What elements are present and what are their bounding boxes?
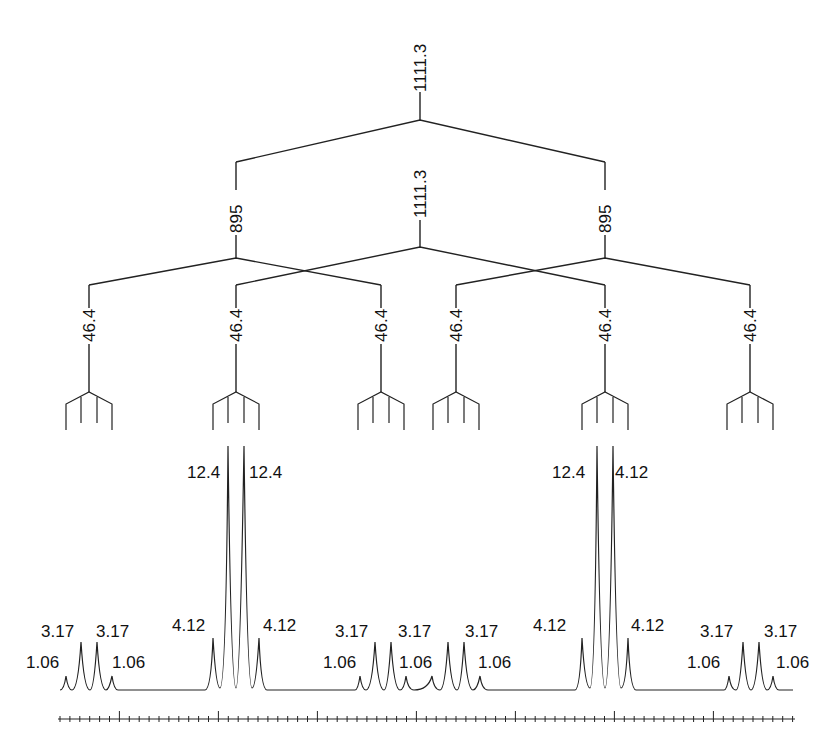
quartet-fork-1 <box>66 392 112 430</box>
peak-label: 3.17 <box>700 622 733 641</box>
peak-label: 4.12 <box>172 616 205 635</box>
coupling-label-895-right: 895 <box>596 205 615 233</box>
peak-label: 1.06 <box>478 653 511 672</box>
quartet-fork-5 <box>582 392 628 430</box>
peak-label: 12.4 <box>249 463 282 482</box>
tree-level-3: 46.4 46.4 46.4 46.4 46.4 46.4 <box>80 285 760 392</box>
peak-label: 1.06 <box>323 653 356 672</box>
coupling-label-46-3: 46.4 <box>372 309 391 342</box>
peak-label: 1.06 <box>776 653 809 672</box>
quartet-fork-3 <box>358 392 404 430</box>
coupling-label-root: 1111.3 <box>411 44 430 92</box>
coupling-label-46-1: 46.4 <box>80 309 99 342</box>
peak-label: 1.06 <box>26 653 59 672</box>
peak-label: 3.17 <box>41 622 74 641</box>
quartet-fork-2 <box>213 392 259 430</box>
coupling-label-46-4: 46.4 <box>447 309 466 342</box>
peak-label: 4.12 <box>533 616 566 635</box>
peak-label: 3.17 <box>764 622 797 641</box>
coupling-label-1111-center: 1111.3 <box>411 170 430 218</box>
peak-label: 3.17 <box>96 622 129 641</box>
quartet-fork-4 <box>433 392 479 430</box>
peak-label: 12.4 <box>552 463 585 482</box>
peak-label: 4.12 <box>615 463 648 482</box>
coupling-label-46-6: 46.4 <box>741 309 760 342</box>
tree-level-1: 1111.3 <box>236 44 605 162</box>
quartet-forks <box>66 392 773 430</box>
coupling-label-895-left: 895 <box>227 205 246 233</box>
peak-label: 1.06 <box>399 653 432 672</box>
tree-level-2: 895 1111.3 895 <box>89 162 750 285</box>
peak-label: 1.06 <box>687 653 720 672</box>
peak-label: 3.17 <box>465 622 498 641</box>
coupling-label-46-5: 46.4 <box>596 309 615 342</box>
nmr-splitting-diagram: 1111.3 895 1111.3 895 46.4 46.4 46.4 46.… <box>0 0 833 753</box>
peak-label: 3.17 <box>398 622 431 641</box>
peak-labels: 1.06 3.17 3.17 1.06 4.12 12.4 12.4 4.12 … <box>26 463 809 672</box>
peak-label: 3.17 <box>335 622 368 641</box>
frequency-scale-bar <box>58 711 795 722</box>
peak-label: 12.4 <box>187 463 220 482</box>
peak-label: 4.12 <box>631 616 664 635</box>
coupling-label-46-2: 46.4 <box>227 309 246 342</box>
peak-label: 1.06 <box>112 653 145 672</box>
peak-label: 4.12 <box>263 616 296 635</box>
quartet-fork-6 <box>727 392 773 430</box>
